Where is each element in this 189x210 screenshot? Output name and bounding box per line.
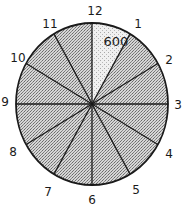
sector-value-label: 600 bbox=[104, 34, 129, 49]
hour-label: 3 bbox=[174, 98, 182, 112]
hour-label: 4 bbox=[165, 147, 173, 161]
hour-label: 8 bbox=[9, 145, 17, 159]
hour-label: 6 bbox=[88, 193, 96, 207]
hour-label: 2 bbox=[165, 53, 173, 67]
clock-sector-diagram: 121234567891011 600 bbox=[0, 0, 189, 210]
hour-label: 1 bbox=[134, 17, 142, 31]
hour-label: 11 bbox=[42, 17, 57, 31]
hour-label: 12 bbox=[87, 4, 102, 18]
hour-label: 9 bbox=[1, 95, 9, 109]
hour-label: 10 bbox=[10, 51, 25, 65]
hour-label: 7 bbox=[44, 185, 52, 199]
hour-label: 5 bbox=[132, 183, 140, 197]
